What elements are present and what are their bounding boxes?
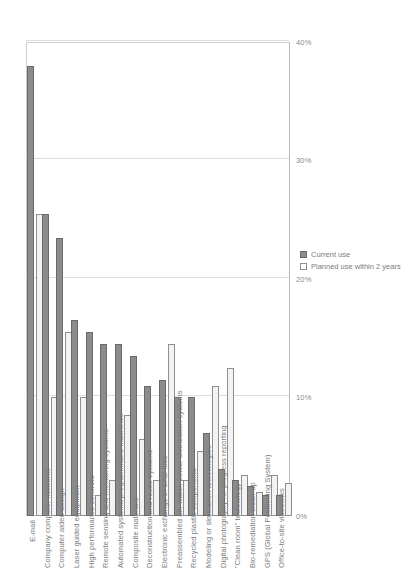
- bar-current: [130, 356, 137, 516]
- legend-label-planned-use: Planned use within 2 years: [311, 262, 401, 271]
- legend-swatch-current-use-icon: [300, 251, 307, 258]
- legend-inner: Current use Planned use within 2 years: [300, 250, 401, 271]
- legend-label-current-use: Current use: [311, 250, 350, 259]
- gridline: [26, 40, 289, 41]
- legend-item-current-use: Current use: [300, 250, 401, 259]
- category-label: Deconstruction and reuse systems: [145, 520, 154, 568]
- category-label: Recycled plastic components: [189, 520, 198, 568]
- bar-planned: [285, 483, 292, 516]
- category-label: Remote sensing and monitoring systems: [101, 520, 110, 568]
- legend-item-planned-use: Planned use within 2 years: [300, 262, 401, 271]
- category-label: Laser guided equipment: [72, 520, 81, 568]
- category-label: Automated systems/programmable machines: [116, 520, 125, 568]
- value-axis-tick-label: 40%: [296, 38, 312, 47]
- value-axis-tick-label: 0%: [296, 512, 307, 521]
- category-label: "Clean room" technology: [233, 520, 242, 568]
- category-label: High performance concrete: [87, 520, 96, 568]
- value-axis-tick-label: 10%: [296, 394, 312, 403]
- category-label: Composite materials: [131, 520, 140, 568]
- chart-legend: Current use Planned use within 2 years: [300, 149, 324, 250]
- category-label: Company computer networks: [43, 520, 52, 568]
- category-label: Computer aided design: [57, 520, 66, 568]
- category-label: GPS (Global Positioning System): [263, 520, 272, 568]
- bar-current: [56, 238, 63, 516]
- category-label: Digital photography for progress reporti…: [219, 520, 228, 568]
- category-label: Office-to-site videolinks: [277, 520, 286, 568]
- value-axis-tick-label: 20%: [296, 275, 312, 284]
- legend-swatch-planned-use-icon: [300, 263, 307, 270]
- bar-current: [27, 66, 34, 516]
- bars-layer: [26, 42, 290, 516]
- category-label: E-mail: [28, 520, 37, 568]
- category-label: Bio-remediation clean-up: [248, 520, 257, 568]
- category-label: Preassembled air, water, power distribut…: [175, 520, 184, 568]
- category-label: Electronic exchange of CAD files: [160, 520, 169, 568]
- category-label: Modeling or simulation technologies: [204, 520, 213, 568]
